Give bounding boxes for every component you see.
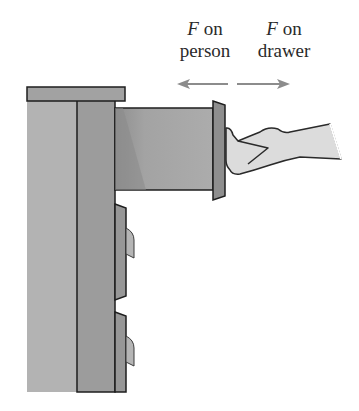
drawer-front-panel: [213, 101, 225, 200]
closed-drawer-2: [115, 312, 134, 392]
open-drawer: [115, 101, 225, 200]
cabinet-top: [27, 87, 125, 101]
cabinet-front-frame: [77, 100, 115, 392]
cabinet-side-panel: [27, 100, 77, 392]
diagram-canvas: [0, 0, 359, 411]
drawer-handle: [126, 336, 134, 366]
arrow-force-on-drawer: [237, 79, 290, 89]
closed-drawer-1: [115, 204, 134, 300]
arrow-force-on-person: [177, 79, 228, 89]
hand-pulling-drawer: [226, 124, 341, 174]
drawer-handle: [126, 228, 134, 258]
